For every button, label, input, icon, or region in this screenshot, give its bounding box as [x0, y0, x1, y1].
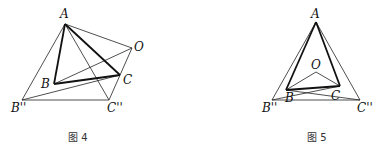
segment-A-C [65, 24, 120, 75]
segment-B2-C [22, 75, 120, 100]
label-B2: B'' [10, 101, 26, 115]
segment-A-B [286, 22, 316, 90]
figure-4: A O B C B'' C'' 图 4 [10, 7, 144, 143]
figure-caption: 图 4 [68, 132, 88, 143]
label-B: B [40, 77, 50, 91]
label-O: O [134, 40, 144, 54]
label-C2: C'' [357, 101, 373, 115]
diagram-canvas: A O B C B'' C'' 图 4 A O B C B'' C'' 图 5 [0, 0, 386, 151]
label-A: A [310, 7, 320, 21]
label-C: C [123, 73, 132, 87]
segment-A-C [316, 22, 340, 86]
label-B2: B'' [261, 101, 277, 115]
segment-A-O [65, 24, 132, 48]
label-C: C [331, 89, 340, 103]
label-O: O [311, 58, 321, 72]
label-A: A [59, 7, 69, 21]
figure-5: A O B C B'' C'' 图 5 [261, 7, 373, 143]
figure-caption: 图 5 [307, 132, 327, 143]
label-C2: C'' [107, 101, 123, 115]
label-B: B [284, 91, 294, 105]
